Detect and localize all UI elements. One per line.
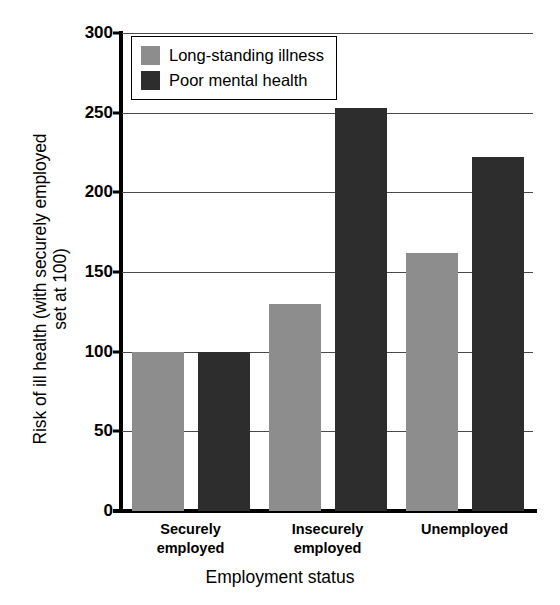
- bar: [132, 352, 184, 511]
- x-tick-label: Securelyemployed: [122, 520, 259, 558]
- dark-swatch: [141, 71, 160, 90]
- x-tick-label: Unemployed: [396, 520, 533, 539]
- y-tick-mark: [113, 32, 122, 35]
- y-tick-mark: [113, 510, 122, 513]
- bar-group: [122, 33, 259, 511]
- x-tick-label: Insecurelyemployed: [259, 520, 396, 558]
- bar: [335, 108, 387, 511]
- y-tick-mark: [113, 191, 122, 194]
- plot-area: [122, 33, 533, 511]
- y-tick-label: 0: [67, 501, 113, 521]
- y-tick-label: 100: [67, 342, 113, 362]
- bar-group: [259, 33, 396, 511]
- y-tick-mark: [113, 430, 122, 433]
- x-tick-label-line: employed: [122, 539, 259, 558]
- bar: [472, 157, 524, 511]
- x-tick-label-line: employed: [259, 539, 396, 558]
- legend-item-label: Poor mental health: [169, 71, 308, 90]
- y-axis-tick-labels: 050100150200250300: [47, 0, 113, 605]
- bar: [269, 304, 321, 511]
- x-tick-label-line: Unemployed: [396, 520, 533, 539]
- y-tick-label: 150: [67, 262, 113, 282]
- y-tick-label: 200: [67, 182, 113, 202]
- x-axis-title: Employment status: [0, 567, 560, 588]
- bar: [198, 352, 250, 511]
- x-tick-label-line: Insecurely: [259, 520, 396, 539]
- bar-group: [396, 33, 533, 511]
- legend-item: Long-standing illness: [141, 43, 324, 68]
- y-tick-mark: [113, 111, 122, 114]
- y-tick-label: 250: [67, 103, 113, 123]
- legend-item-label: Long-standing illness: [169, 46, 324, 65]
- legend: Long-standing illnessPoor mental health: [131, 36, 337, 100]
- light-gray-swatch: [141, 46, 160, 65]
- legend-item: Poor mental health: [141, 68, 324, 93]
- bar: [406, 253, 458, 511]
- y-tick-mark: [113, 350, 122, 353]
- bar-chart-figure: Risk of ill health (with securely employ…: [0, 0, 560, 605]
- y-tick-label: 50: [67, 421, 113, 441]
- y-tick-mark: [113, 271, 122, 274]
- y-tick-label: 300: [67, 23, 113, 43]
- x-tick-label-line: Securely: [122, 520, 259, 539]
